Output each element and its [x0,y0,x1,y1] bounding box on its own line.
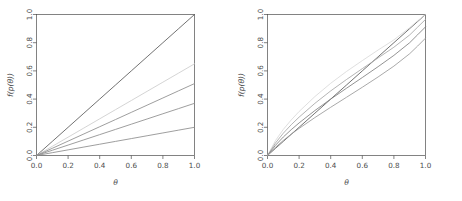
data-curves-left [37,15,195,156]
y-tick-label-right: 0.0 [256,149,265,161]
series-line-3-left [37,84,195,156]
x-axis-ticks-right: 0.00.20.40.60.81.0 [262,156,432,170]
y-tick-label-right: 0.8 [256,37,265,49]
series-line-4-left [37,103,195,155]
data-curves-right [268,15,426,156]
x-tick-label-left: 0.6 [126,161,138,170]
y-axis-ticks-right: 0.00.20.40.60.81.0 [256,8,267,161]
x-tick-label-right: 0.2 [293,161,304,170]
x-tick-label-right: 0.8 [388,161,400,170]
x-tick-label-left: 0.4 [94,161,106,170]
panel-left-svg: 0.00.20.40.60.81.0 0.00.20.40.60.81.0 θ … [0,0,231,201]
y-tick-label-left: 0.2 [25,122,34,133]
y-axis-title-right: f(p(θ)) [237,73,246,97]
x-axis-title-left: θ [113,178,118,187]
x-axis-ticks-left: 0.00.20.40.60.81.0 [31,156,201,170]
x-tick-label-right: 1.0 [420,161,432,170]
series-curve-4-right [268,27,426,156]
x-tick-label-right: 0.0 [262,161,274,170]
y-tick-label-left: 0.4 [25,93,34,105]
y-tick-label-left: 0.0 [25,149,34,161]
y-tick-label-right: 0.4 [256,93,265,105]
x-axis-title-right: θ [344,178,349,187]
panel-right-svg: 0.00.20.40.60.81.0 0.00.20.40.60.81.0 θ … [231,0,462,201]
x-tick-label-right: 0.4 [325,161,337,170]
y-axis-title-left: f(p(θ)) [6,73,15,97]
x-tick-label-left: 1.0 [189,161,201,170]
x-tick-label-left: 0.0 [31,161,43,170]
series-line-1-left [37,15,195,156]
y-tick-label-left: 0.8 [25,37,34,49]
y-tick-label-left: 1.0 [25,8,34,20]
x-tick-label-left: 0.8 [157,161,169,170]
x-tick-label-right: 0.6 [357,161,369,170]
y-tick-label-right: 0.6 [256,65,265,77]
y-axis-ticks-left: 0.00.20.40.60.81.0 [25,8,36,161]
panel-left: 0.00.20.40.60.81.0 0.00.20.40.60.81.0 θ … [0,0,231,201]
y-tick-label-right: 0.2 [256,122,265,133]
figure-two-panel-plot: 0.00.20.40.60.81.0 0.00.20.40.60.81.0 θ … [0,0,462,201]
y-tick-label-left: 0.6 [25,65,34,77]
series-curve-3-right [268,19,426,155]
series-curve-5-right [268,38,426,155]
panel-right: 0.00.20.40.60.81.0 0.00.20.40.60.81.0 θ … [231,0,462,201]
y-tick-label-right: 1.0 [256,8,265,20]
x-tick-label-left: 0.2 [62,161,73,170]
